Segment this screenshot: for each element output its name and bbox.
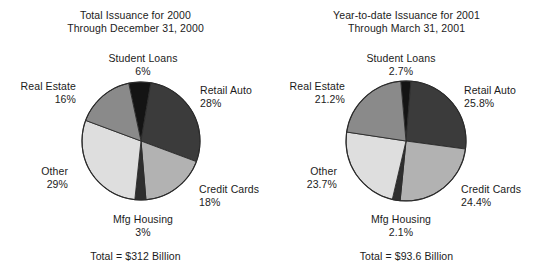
pie-right-label-credit-cards-value: 24.4% <box>461 196 541 209</box>
pie-right-label-student-loans-name: Student Loans <box>321 52 481 65</box>
dual-pie-chart-figure: Total Issuance for 2000 Through December… <box>0 0 542 278</box>
pie-slice-retail-auto <box>406 81 466 149</box>
pie-right-label-retail-auto: Retail Auto 25.8% <box>464 84 542 109</box>
pie-left-label-retail-auto-value: 28% <box>200 97 270 110</box>
pie-left-label-student-loans-value: 6% <box>63 65 223 78</box>
pie-right-label-mfg-housing-name: Mfg Housing <box>321 213 481 226</box>
pie-right-total: Total = $93.6 Billion <box>271 250 542 262</box>
pie-right-label-real-estate-value: 21.2% <box>271 93 345 106</box>
pie-right-label-real-estate: Real Estate 21.2% <box>271 80 345 105</box>
pie-panel-2001: Year-to-date Issuance for 2001 Through M… <box>271 0 542 278</box>
pie-right-label-mfg-housing-value: 2.1% <box>321 226 481 239</box>
pie-left-label-real-estate-name: Real Estate <box>4 80 76 93</box>
pie-right-slice-group <box>346 81 466 201</box>
pie-right-label-mfg-housing: Mfg Housing 2.1% <box>321 213 481 238</box>
pie-left-label-real-estate: Real Estate 16% <box>4 80 76 105</box>
pie-right-label-student-loans: Student Loans 2.7% <box>321 52 481 77</box>
pie-left-label-credit-cards: Credit Cards 18% <box>199 183 271 208</box>
pie-right-label-student-loans-value: 2.7% <box>321 65 481 78</box>
pie-right-label-other-name: Other <box>271 165 337 178</box>
pie-left-label-student-loans: Student Loans 6% <box>63 52 223 77</box>
pie-right-label-credit-cards-name: Credit Cards <box>461 183 541 196</box>
pie-slice-real-estate <box>347 81 406 141</box>
pie-left-label-other-value: 29% <box>6 178 68 191</box>
pie-left-label-other: Other 29% <box>6 165 68 190</box>
pie-right-label-retail-auto-value: 25.8% <box>464 97 542 110</box>
pie-left-label-retail-auto: Retail Auto 28% <box>200 84 270 109</box>
pie-left-label-retail-auto-name: Retail Auto <box>200 84 270 97</box>
pie-right-label-other: Other 23.7% <box>271 165 337 190</box>
pie-left-total: Total = $312 Billion <box>0 250 271 262</box>
pie-right-label-credit-cards: Credit Cards 24.4% <box>461 183 541 208</box>
pie-right-label-real-estate-name: Real Estate <box>271 80 345 93</box>
pie-slice-credit-cards <box>400 141 465 201</box>
pie-left-label-other-name: Other <box>6 165 68 178</box>
pie-right-label-retail-auto-name: Retail Auto <box>464 84 542 97</box>
pie-left-label-mfg-housing-name: Mfg Housing <box>63 213 223 226</box>
pie-left-label-real-estate-value: 16% <box>4 93 76 106</box>
pie-right-label-other-value: 23.7% <box>271 178 337 191</box>
pie-left-label-credit-cards-name: Credit Cards <box>199 183 271 196</box>
pie-panel-2000: Total Issuance for 2000 Through December… <box>0 0 271 278</box>
pie-left-label-credit-cards-value: 18% <box>199 196 271 209</box>
pie-left-label-student-loans-name: Student Loans <box>63 52 223 65</box>
pie-left-slice-group <box>82 82 200 200</box>
pie-left-label-mfg-housing: Mfg Housing 3% <box>63 213 223 238</box>
pie-left-label-mfg-housing-value: 3% <box>63 226 223 239</box>
